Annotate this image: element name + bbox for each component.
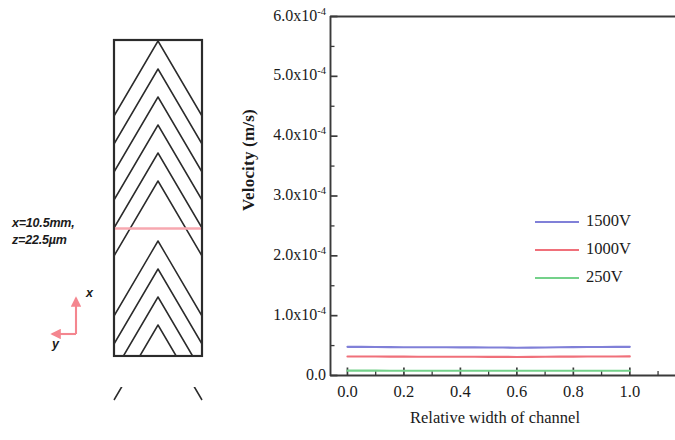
axis-label-y-text: y (51, 337, 60, 351)
velocity-plot-panel: Velocity (m/s) Relative width of channel… (222, 0, 675, 440)
x-tick-label: 0.2 (374, 384, 434, 401)
y-tick-label: 4.0x10-4 (242, 127, 326, 143)
axis-indicator-svg: x y (36, 278, 106, 348)
channel-outline-overlay (114, 40, 202, 356)
y-tick-label: 3.0x10-4 (242, 187, 326, 203)
x-axis-title: Relative width of channel (330, 408, 660, 428)
y-tick-label: 2.0x10-4 (242, 247, 326, 263)
plot-axes (330, 16, 675, 376)
series-line-1500v (347, 347, 629, 348)
x-tick-label: 0.8 (543, 384, 603, 401)
y-tick-label: 1.0x10-4 (242, 307, 326, 323)
data-series-group (347, 347, 629, 371)
channel-outline (114, 40, 202, 356)
axis-label-x-text: x (85, 286, 94, 300)
y-tick-label-group: 0.01.0x10-42.0x10-43.0x10-44.0x10-45.0x1… (222, 0, 326, 400)
bottom-mask (108, 357, 213, 387)
y-tick-label: 6.0x10-4 (242, 8, 326, 24)
x-tick-label: 1.0 (600, 384, 660, 401)
condition-z: z=22.5µm (12, 232, 112, 249)
chevron-ribs-upper (114, 41, 202, 256)
legend-swatch-group (535, 222, 579, 278)
channel-schematic-panel: x=10.5mm, z=22.5µm x y (0, 0, 240, 440)
y-tick-label: 0.0 (242, 367, 326, 383)
chevron-svg (108, 38, 213, 358)
series-line-1000v (347, 356, 629, 357)
legend-label-1000v: 1000V (586, 241, 631, 258)
chevron-channel-diagram (108, 38, 213, 358)
legend-label-1500v: 1500V (586, 213, 631, 230)
y-tick-label: 5.0x10-4 (242, 67, 326, 83)
measurement-condition-label: x=10.5mm, z=22.5µm (12, 215, 112, 249)
x-tick-label: 0.0 (317, 384, 377, 401)
condition-x: x=10.5mm, (12, 215, 112, 232)
x-tick-label: 0.6 (487, 384, 547, 401)
y-axis-ticks (331, 17, 338, 376)
coordinate-axis-indicator: x y (36, 278, 106, 348)
legend-label-250v: 250V (586, 269, 623, 286)
x-tick-label: 0.4 (430, 384, 490, 401)
